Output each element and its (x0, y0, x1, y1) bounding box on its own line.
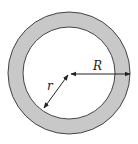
outer-radius-label: R (92, 59, 102, 73)
annulus-diagram: R r (0, 0, 138, 144)
inner-circle (23, 27, 115, 119)
